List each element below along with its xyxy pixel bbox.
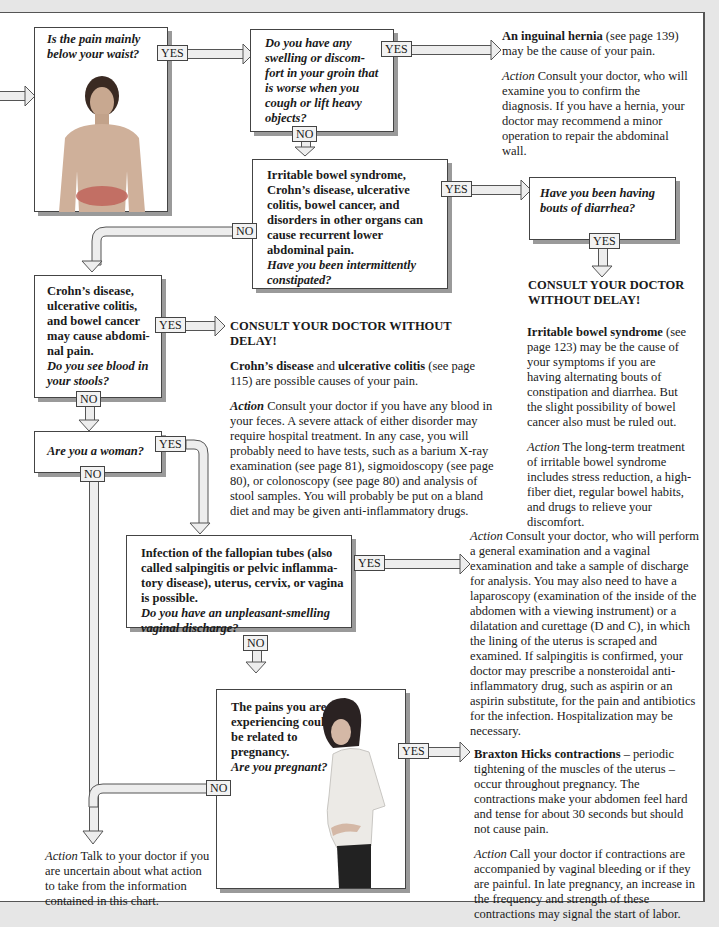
no-label-discharge: NO — [243, 635, 268, 651]
no-arrow-ibs — [86, 225, 234, 265]
no-label-pregnant: NO — [206, 780, 231, 796]
yes-arrow-diarrhea — [598, 249, 608, 267]
arrow-head-icon — [190, 523, 210, 535]
no-arrow-pregnant — [89, 783, 207, 807]
question-groin: Do you have any swelling or discom-fort … — [265, 36, 383, 126]
crohns-info: CONSULT YOUR DOCTOR WITHOUT DELAY! Crohn… — [230, 319, 500, 529]
question-woman: Are you a woman? — [47, 444, 157, 459]
yes-label-woman: YES — [155, 436, 186, 452]
ibs-info: Irritable bowel syndrome (see page 123) … — [527, 325, 692, 540]
node-diarrhea: Have you been having bouts of diarrhea? — [529, 177, 676, 240]
arrow-head-icon — [295, 147, 315, 157]
consult-doctor-right: CONSULT YOUR DOCTOR WITHOUT DELAY! — [528, 278, 688, 308]
yes-arrow-discharge — [385, 559, 461, 569]
no-label-woman: NO — [80, 466, 105, 482]
arrow-head-icon — [592, 266, 612, 278]
yes-arrow-below-waist — [188, 49, 244, 59]
yes-arrow-blood — [186, 321, 216, 331]
node-below-waist: Is the pain mainly below your waist? — [34, 27, 168, 212]
entry-arrow — [0, 91, 26, 101]
yes-label-blood: YES — [155, 317, 186, 333]
arrow-head-icon — [83, 831, 103, 845]
node-ibs: Irritable bowel syndrome, Crohn’s diseas… — [252, 159, 448, 289]
arrow-head-icon — [246, 662, 266, 674]
no-arrow-blood — [85, 407, 95, 421]
question-diarrhea: Have you been having bouts of diarrhea? — [540, 186, 670, 216]
no-arrow-woman — [89, 482, 99, 832]
yes-arrow-groin — [412, 45, 492, 55]
yes-arrow-woman — [186, 439, 210, 525]
yes-label-below-waist: YES — [157, 45, 188, 61]
discharge-question-text: Infection of the fallopian tubes (also c… — [141, 546, 347, 636]
pregnant-woman-image — [313, 696, 393, 888]
flowchart-page: Is the pain mainly below your waist? YES… — [0, 12, 705, 902]
arrow-head-icon — [82, 261, 102, 273]
yes-label-discharge: YES — [354, 555, 385, 571]
node-blood: Crohn’s disease, ulcerative colitis, and… — [34, 275, 162, 398]
yes-arrow-ibs — [472, 185, 522, 195]
node-discharge: Infection of the fallopian tubes (also c… — [126, 535, 352, 628]
braxton-info: Braxton Hicks contractions – periodic ti… — [474, 747, 702, 927]
no-label-ibs: NO — [232, 223, 257, 239]
hernia-info: An inguinal hernia (see page 139) may be… — [502, 29, 692, 169]
final-action: Action Talk to your doctor if you are un… — [45, 849, 210, 909]
ibs-question-text: Irritable bowel syndrome, Crohn’s diseas… — [267, 168, 443, 288]
man-torso-image — [55, 76, 150, 212]
yes-label-diarrhea: YES — [589, 233, 620, 249]
no-label-blood: NO — [76, 391, 101, 407]
node-groin: Do you have any swelling or discom-fort … — [250, 29, 394, 132]
yes-label-ibs: YES — [441, 181, 472, 197]
node-pregnant: The pains you are experiencing could be … — [216, 689, 406, 889]
arrow-head-icon — [215, 316, 227, 336]
yes-label-pregnant: YES — [398, 743, 429, 759]
no-label-groin: NO — [292, 126, 317, 142]
discharge-action: Action Consult your doctor, who will per… — [470, 529, 702, 739]
blood-question-text: Crohn’s disease, ulcerative colitis, and… — [47, 284, 159, 389]
question-below-waist: Is the pain mainly below your waist? — [47, 32, 167, 62]
yes-label-groin: YES — [381, 41, 412, 57]
arrow-head-icon — [460, 742, 472, 762]
yes-arrow-pregnant — [429, 747, 461, 757]
